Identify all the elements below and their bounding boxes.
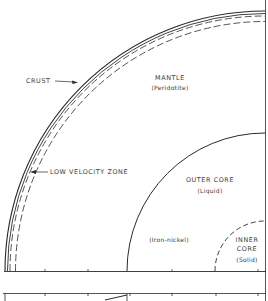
outer-core-state: (Liquid) xyxy=(190,186,230,195)
lower-chart-frame xyxy=(3,293,266,301)
earth-section-drawing xyxy=(0,0,268,301)
crust-inner-line xyxy=(8,14,266,272)
lvz-upper-dashed-line xyxy=(10,16,265,271)
lvz-arrow-icon xyxy=(30,170,48,174)
outer-core-composition: (Iron-nickel) xyxy=(144,235,194,244)
crust-arrow-icon xyxy=(55,81,78,85)
mantle-label: MANTLE xyxy=(150,74,190,83)
inner-core-label-line2: CORE xyxy=(232,245,262,254)
crust-label: CRUST xyxy=(26,77,51,86)
inner-core-label-line1: INNER xyxy=(232,236,262,245)
mantle-composition: (Peridotite) xyxy=(145,83,195,92)
crust-outer-line xyxy=(5,11,265,271)
lvz-lower-dashed-line xyxy=(16,22,266,272)
low-velocity-zone-label: LOW VELOCITY ZONE xyxy=(50,168,128,177)
inner-core-state: (Solid) xyxy=(232,255,262,264)
outer-core-label: OUTER CORE xyxy=(180,176,240,185)
